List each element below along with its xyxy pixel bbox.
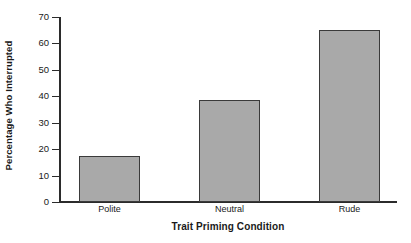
y-tick-label: 50 bbox=[5, 65, 49, 75]
x-category-label-neutral: Neutral bbox=[199, 205, 260, 214]
y-tick-mark bbox=[52, 96, 59, 97]
y-tick-label: 10 bbox=[5, 171, 49, 181]
y-tick-label: 70 bbox=[5, 12, 49, 22]
x-axis-title: Trait Priming Condition bbox=[59, 221, 397, 232]
y-tick-mark bbox=[52, 43, 59, 44]
bar-polite bbox=[79, 156, 140, 202]
bar-neutral bbox=[199, 100, 260, 202]
x-category-label-polite: Polite bbox=[79, 205, 140, 214]
y-tick-label: 30 bbox=[5, 118, 49, 128]
y-tick-mark bbox=[52, 70, 59, 71]
y-tick-mark bbox=[52, 176, 59, 177]
y-tick-label: 0 bbox=[5, 197, 49, 207]
y-tick-mark bbox=[52, 202, 59, 203]
y-tick-mark bbox=[52, 123, 59, 124]
y-tick-label: 20 bbox=[5, 144, 49, 154]
y-tick-mark bbox=[52, 149, 59, 150]
y-tick-mark bbox=[52, 17, 59, 18]
y-tick-label: 60 bbox=[5, 38, 49, 48]
y-axis-line bbox=[59, 17, 61, 203]
bar-rude bbox=[319, 30, 380, 202]
bar-chart-figure: Percentage Who Interrupted 70 60 50 40 3… bbox=[0, 0, 411, 243]
x-category-label-rude: Rude bbox=[319, 205, 380, 214]
y-tick-label: 40 bbox=[5, 91, 49, 101]
